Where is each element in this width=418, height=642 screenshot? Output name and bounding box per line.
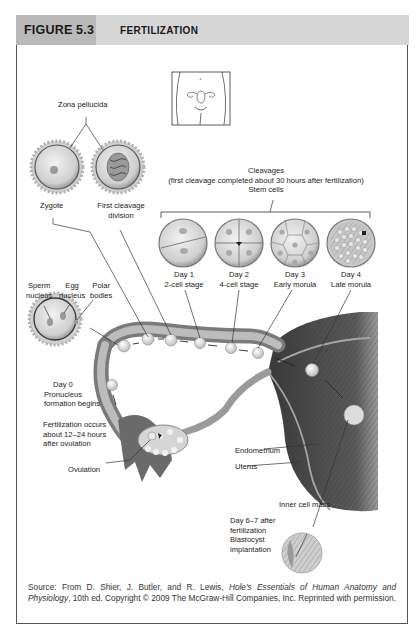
label-zona-pellucida: Zona pellucida <box>58 100 107 110</box>
label-day2: Day 2 4-cell stage <box>214 270 264 289</box>
day2-cell <box>215 219 263 267</box>
label-fert-line2: about 12–24 hours <box>43 430 106 440</box>
label-day3-stage: Early morula <box>270 280 320 290</box>
label-sperm-line1: Sperm <box>26 281 52 291</box>
label-day2-stage: 4-cell stage <box>214 280 264 290</box>
label-ovulation: Ovulation <box>68 465 100 475</box>
label-cleavages-line2: (first cleavage completed about 30 hours… <box>150 176 382 186</box>
zygote-cell <box>31 141 83 193</box>
label-day67-line1: Day 6–7 after <box>230 516 276 526</box>
day4-cell <box>327 219 375 267</box>
label-day3: Day 3 Early morula <box>270 270 320 289</box>
label-endometrium: Endometrium <box>235 446 280 456</box>
label-day0-line2: Pronucleus <box>44 390 100 400</box>
label-zygote: Zygote <box>40 201 63 211</box>
label-day67-line3: Blastocyst <box>230 535 276 545</box>
label-day1-day: Day 1 <box>160 270 208 280</box>
label-sperm-line2: nucleus <box>26 291 52 301</box>
label-day67-line4: implantation <box>230 545 276 555</box>
label-fert-line1: Fertilization occurs <box>43 420 106 430</box>
label-polar-bodies: Polar bodies <box>90 281 112 300</box>
fertilization-illustration <box>0 0 418 642</box>
label-egg-line2: nucleus <box>59 291 85 301</box>
body-location-thumbnail <box>172 72 230 125</box>
label-stem-cells: Stem cells <box>150 185 382 195</box>
label-day0: Day 0 Pronucleus formation begins <box>44 380 100 409</box>
label-cleavages-line1: Cleavages <box>150 166 382 176</box>
blastocyst-cell <box>282 533 322 573</box>
label-first-cleavage-line2: division <box>94 211 148 221</box>
label-day2-day: Day 2 <box>214 270 264 280</box>
caption-prefix: Source: From D. Shier, J. Butler, and R.… <box>28 582 229 592</box>
label-sperm-nucleus: Sperm nucleus <box>26 281 52 300</box>
label-day4-stage: Late morula <box>326 280 376 290</box>
label-inner-cell-mass: Inner cell mass <box>279 500 330 510</box>
label-fert-line3: after ovulation <box>43 439 106 449</box>
day3-cell <box>271 219 319 267</box>
label-uterus: Uterus <box>235 462 257 472</box>
label-day4: Day 4 Late morula <box>326 270 376 289</box>
label-day1-stage: 2-cell stage <box>160 280 208 290</box>
label-first-cleavage: First cleavage division <box>94 201 148 220</box>
label-day67-line2: fertilization <box>230 526 276 536</box>
label-first-cleavage-line1: First cleavage <box>94 201 148 211</box>
label-day3-day: Day 3 <box>270 270 320 280</box>
first-cleavage-cell <box>92 141 144 193</box>
caption-suffix: , 10th ed. Copyright © 2009 The McGraw-H… <box>68 593 396 603</box>
label-egg-nucleus: Egg nucleus <box>59 281 85 300</box>
label-fertilization: Fertilization occurs about 12–24 hours a… <box>43 420 106 449</box>
day1-cell <box>159 219 207 267</box>
label-polar-line2: bodies <box>90 291 112 301</box>
label-day1: Day 1 2-cell stage <box>160 270 208 289</box>
label-cleavages: Cleavages (first cleavage completed abou… <box>150 166 382 195</box>
label-egg-line1: Egg <box>59 281 85 291</box>
label-day0-line3: formation begins <box>44 399 100 409</box>
label-day4-day: Day 4 <box>326 270 376 280</box>
day0-egg-cell <box>29 293 81 345</box>
label-day6-7: Day 6–7 after fertilization Blastocyst i… <box>230 516 276 554</box>
figure-caption: Source: From D. Shier, J. Butler, and R.… <box>28 582 396 604</box>
label-day0-line1: Day 0 <box>44 380 100 390</box>
label-polar-line1: Polar <box>90 281 112 291</box>
